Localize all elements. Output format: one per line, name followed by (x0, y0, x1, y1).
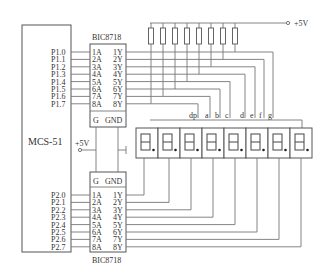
segment-label: dp (189, 111, 197, 120)
digit-display (180, 128, 202, 158)
lower-g-pin: G (93, 177, 99, 186)
circuit-diagram: MCS-51 BIC8718 G GND 1A2A3A4A5A6A7A8A1Y2… (0, 0, 331, 280)
upper-chip-name: BIC8718 (92, 33, 121, 42)
segment-label: b (215, 111, 219, 120)
lower-gnd-pin: GND (105, 177, 123, 186)
resistor (185, 28, 190, 44)
resistor (197, 28, 202, 44)
segment-label: g (268, 111, 272, 120)
upper-gnd-pin: GND (105, 116, 123, 125)
resistor (149, 28, 154, 44)
resistor (221, 28, 226, 44)
top-power-terminal (286, 21, 289, 24)
digit-display (268, 128, 290, 158)
mid-power-terminal (78, 148, 81, 151)
top-power-label: +5V (294, 19, 309, 28)
segment-label: c (225, 111, 229, 120)
digit-display (290, 128, 312, 158)
digit-display (136, 128, 158, 158)
digit-display (246, 128, 268, 158)
segment-label: d (240, 111, 244, 120)
upper-input-pin: 8A (92, 100, 102, 109)
segment-label: a (205, 111, 209, 120)
lower-output-pin: 8Y (113, 243, 123, 252)
resistor (209, 28, 214, 44)
segment-label: e (250, 111, 254, 120)
resistor (173, 28, 178, 44)
upper-g-pin: G (93, 116, 99, 125)
digit-display (158, 128, 180, 158)
segment-label: f (259, 111, 262, 120)
resistor (161, 28, 166, 44)
lower-chip-name: BIC8718 (92, 256, 121, 265)
mcu-label: MCS-51 (28, 136, 62, 147)
pullup-resistors (149, 23, 238, 44)
digit-display (224, 128, 246, 158)
mid-power-label: +5V (75, 139, 90, 148)
port1-pin-label: P1.7 (51, 100, 65, 109)
resistor (233, 28, 238, 44)
digit-display (202, 128, 224, 158)
port2-pin-label: P2.7 (51, 243, 65, 252)
lower-input-pin: 8A (92, 243, 102, 252)
upper-output-pin: 8Y (113, 100, 123, 109)
seven-segment-displays (136, 128, 312, 158)
